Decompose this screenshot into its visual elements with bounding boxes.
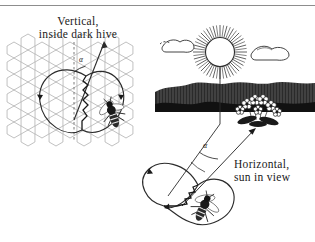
hive-bee-icon: [94, 93, 130, 131]
sun-icon: [206, 38, 235, 67]
honeycomb-cells: [7, 34, 133, 146]
caption-field-line1: Horizontal,: [234, 158, 289, 170]
bee-waggle-dance-figure: α α Vertical, inside dark hive Horizonta…: [0, 0, 315, 242]
field-angle-arc: [199, 152, 218, 159]
field-figure-eight-path: [143, 163, 234, 224]
caption-hive-line2: inside dark hive: [22, 28, 134, 41]
hive-waggle-run-zigzag: [82, 76, 88, 130]
caption-vertical-hive: Vertical, inside dark hive: [22, 15, 134, 41]
field-path-arrowheads: [147, 168, 170, 210]
caption-hive-line1: Vertical,: [57, 15, 98, 27]
cloud-left-icon: [160, 40, 194, 52]
hive-angle-label: α: [79, 55, 84, 64]
caption-field-line2: sun in view: [234, 171, 314, 184]
treeline-horizon: [155, 81, 315, 112]
cloud-right-icon: [251, 46, 289, 60]
caption-horizontal-field: Horizontal, sun in view: [234, 158, 314, 184]
sun-bearing-line-lower: [168, 124, 220, 196]
field-angle-arc-outer: [191, 162, 205, 172]
